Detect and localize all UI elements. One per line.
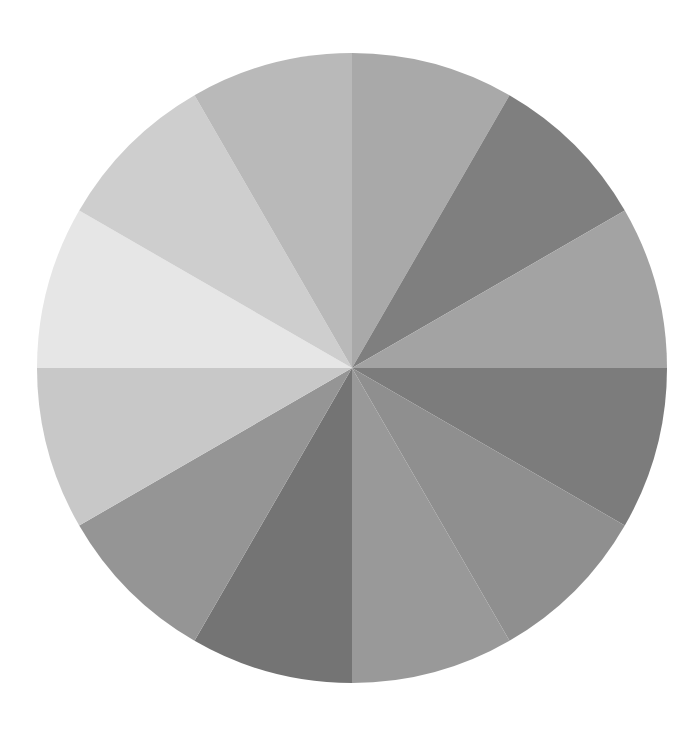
- pie-chart-canvas: [0, 0, 698, 735]
- pie-wedges: [37, 53, 667, 683]
- pie-chart: [0, 0, 698, 735]
